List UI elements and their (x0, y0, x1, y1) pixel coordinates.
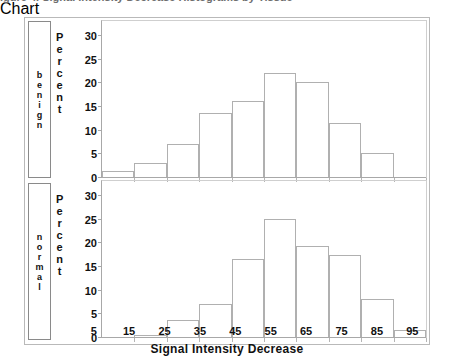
y-axis-title-bottom-letter-3: c (57, 229, 63, 241)
row-label-normal: normal (28, 183, 51, 340)
y-tick-mark-benign-10 (98, 130, 102, 131)
y-axis-title-bottom-letter-5: n (56, 253, 63, 265)
y-tick-labels-normal: 051015202530 (75, 180, 99, 338)
bar-benign-65 (296, 82, 328, 177)
y-tick-mark-normal-10 (98, 290, 102, 291)
row-label-benign-letter-2: n (37, 90, 43, 100)
bar-benign-85 (361, 153, 393, 177)
y-axis-title-top-letter-2: r (58, 55, 62, 67)
row-label-benign-letters: benign (37, 70, 43, 130)
y-tick-normal-10: 10 (85, 285, 97, 297)
x-tick-labels: 5152535455565758595 (76, 325, 430, 341)
x-tick-label-25: 25 (158, 325, 170, 337)
x-tick-label-5: 5 (91, 325, 97, 337)
y-axis-title-top-letter-0: P (56, 31, 63, 43)
bar-benign-45 (232, 101, 264, 177)
y-tick-mark-normal-30 (98, 195, 102, 196)
y-tick-labels-benign: 051015202530 (75, 20, 99, 178)
row-label-benign-letter-1: e (37, 80, 42, 90)
y-tick-mark-benign-30 (98, 35, 102, 36)
row-label-normal-letter-4: a (37, 272, 42, 282)
figure-frame: benign normal Percent Percent 0510152025… (24, 17, 430, 345)
x-tick-label-85: 85 (371, 325, 383, 337)
y-tick-normal-30: 30 (85, 190, 97, 202)
y-tick-mark-benign-15 (98, 106, 102, 107)
y-axis-title-top: Percent (56, 31, 63, 115)
y-tick-mark-benign-25 (98, 59, 102, 60)
x-tick-label-45: 45 (229, 325, 241, 337)
x-tick-label-75: 75 (335, 325, 347, 337)
y-tick-mark-benign-20 (98, 82, 102, 83)
row-label-normal-letter-1: o (37, 242, 43, 252)
y-tick-mark-normal-20 (98, 242, 102, 243)
bar-benign-55 (264, 73, 296, 177)
plot-area-benign (101, 20, 427, 178)
y-axis-title-bottom-letter-0: P (56, 193, 63, 205)
y-tick-mark-normal-25 (98, 219, 102, 220)
row-label-benign-letter-5: n (37, 120, 43, 130)
row-label-benign-letter-3: i (38, 100, 41, 110)
y-tick-benign-25: 25 (85, 54, 97, 66)
y-tick-benign-30: 30 (85, 30, 97, 42)
plot-area-normal (101, 180, 427, 338)
y-tick-normal-15: 15 (85, 261, 97, 273)
bar-normal-55 (264, 219, 296, 337)
bar-benign-15 (134, 163, 166, 177)
bar-benign-25 (167, 144, 199, 177)
truncated-header-text: igure 4. Signal Intensity Decrease Histo… (0, 0, 453, 9)
x-tick-label-35: 35 (194, 325, 206, 337)
row-label-normal-letter-3: m (35, 262, 43, 272)
bars-normal (102, 181, 426, 338)
y-tick-normal-25: 25 (85, 214, 97, 226)
row-label-normal-letters: normal (35, 232, 43, 292)
row-label-benign: benign (28, 21, 51, 178)
y-axis-title-top-letter-4: e (57, 79, 63, 91)
y-tick-mark-normal-5 (98, 313, 102, 314)
y-tick-benign-10: 10 (85, 125, 97, 137)
y-axis-title-bottom-letter-6: t (58, 265, 62, 277)
bar-normal-65 (296, 246, 328, 337)
y-tick-mark-benign-5 (98, 153, 102, 154)
bar-benign-75 (329, 123, 361, 177)
histogram-panel-normal: 051015202530 (75, 180, 427, 338)
bar-benign-35 (199, 113, 231, 177)
bars-benign (102, 21, 426, 178)
y-axis-title-top-letter-6: t (58, 103, 62, 115)
row-label-benign-letter-0: b (37, 70, 43, 80)
y-axis-title-bottom: Percent (56, 193, 63, 277)
x-tick-label-55: 55 (265, 325, 277, 337)
y-axis-title-top-letter-5: n (56, 91, 63, 103)
x-tick-label-15: 15 (123, 325, 135, 337)
y-tick-normal-20: 20 (85, 237, 97, 249)
row-label-normal-letter-5: l (38, 282, 41, 292)
y-tick-benign-15: 15 (85, 101, 97, 113)
truncated-header-label: igure 4. Signal Intensity Decrease Histo… (0, 0, 293, 3)
y-axis-title-top-letter-3: c (57, 67, 63, 79)
y-axis-title-bottom-letter-1: e (57, 205, 63, 217)
row-label-normal-letter-2: r (38, 252, 42, 262)
x-axis-title: Signal Intensity Decrease (24, 342, 430, 356)
y-tick-benign-20: 20 (85, 77, 97, 89)
y-axis-title-top-letter-1: e (57, 43, 63, 55)
y-tick-normal-5: 5 (91, 308, 97, 320)
row-label-benign-letter-4: g (37, 110, 43, 120)
x-tick-label-65: 65 (300, 325, 312, 337)
x-tick-label-95: 95 (406, 325, 418, 337)
histogram-panel-benign: 051015202530 (75, 20, 427, 178)
y-axis-title-bottom-letter-2: r (58, 217, 62, 229)
y-axis-title-bottom-letter-4: e (57, 241, 63, 253)
row-label-normal-letter-0: n (37, 232, 43, 242)
y-tick-benign-5: 5 (91, 148, 97, 160)
y-tick-mark-normal-15 (98, 266, 102, 267)
x-axis-line-benign (102, 177, 426, 178)
